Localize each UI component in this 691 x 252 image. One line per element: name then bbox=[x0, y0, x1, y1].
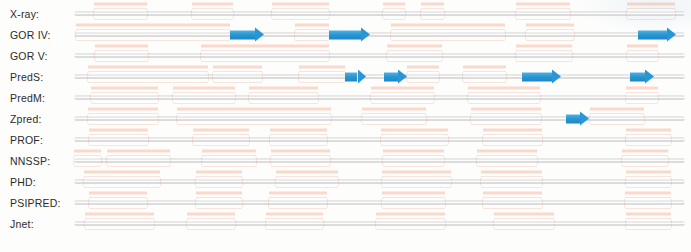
helix-element bbox=[173, 92, 236, 103]
row-label-preds: PredS: bbox=[10, 71, 43, 82]
helix-element bbox=[85, 218, 154, 229]
structure-track-prof bbox=[74, 129, 685, 150]
track-row-gor-iv: GOR IV: bbox=[0, 24, 691, 45]
structure-track-psipred bbox=[74, 192, 685, 213]
coil-backbone bbox=[74, 54, 685, 58]
coil-backbone bbox=[74, 138, 685, 142]
structure-track-gor-v bbox=[74, 45, 685, 66]
helix-element bbox=[391, 29, 506, 40]
helix-element bbox=[213, 71, 262, 82]
helix-element bbox=[383, 8, 405, 19]
helix-element bbox=[376, 218, 445, 229]
helix-element bbox=[622, 155, 668, 166]
helix-element bbox=[107, 155, 170, 166]
helix-element bbox=[387, 50, 442, 61]
track-row-preds: PredS: bbox=[0, 66, 691, 87]
helix-element bbox=[516, 50, 571, 61]
helix-element bbox=[381, 134, 449, 145]
helix-element bbox=[76, 29, 230, 40]
helix-element bbox=[516, 8, 570, 19]
helix-element bbox=[626, 176, 672, 187]
helix-element bbox=[91, 92, 158, 103]
strand-arrow-element bbox=[345, 70, 366, 84]
helix-element bbox=[272, 8, 329, 19]
track-row-jnet: Jnet: bbox=[0, 213, 691, 234]
helix-element bbox=[383, 155, 443, 166]
structure-track-phd bbox=[74, 171, 685, 192]
helix-element bbox=[196, 176, 242, 187]
track-row-prof: PROF: bbox=[0, 129, 691, 150]
row-label-jnet: Jnet: bbox=[10, 218, 34, 229]
row-label-nnssp: NNSSP: bbox=[10, 155, 50, 166]
helix-element bbox=[463, 71, 506, 82]
helix-element bbox=[270, 134, 327, 145]
helix-element bbox=[94, 8, 147, 19]
structure-track-predm bbox=[74, 87, 685, 108]
helix-element bbox=[625, 197, 672, 208]
track-row-x-ray: X-ray: bbox=[0, 3, 691, 24]
structure-track-nnssp bbox=[74, 150, 685, 171]
strand-arrow-element bbox=[230, 28, 263, 42]
helix-element bbox=[626, 134, 672, 145]
strand-arrow-element bbox=[522, 70, 560, 84]
strand-shaft bbox=[522, 72, 551, 81]
helix-element bbox=[177, 113, 331, 124]
helix-element bbox=[407, 71, 439, 82]
helix-element bbox=[84, 176, 160, 187]
row-label-gor-iv: GOR IV: bbox=[10, 29, 51, 40]
strand-arrow-element bbox=[384, 70, 406, 84]
track-row-phd: PHD: bbox=[0, 171, 691, 192]
strand-arrow-element bbox=[630, 70, 655, 84]
structure-track-jnet bbox=[74, 213, 685, 234]
track-row-predm: PredM: bbox=[0, 87, 691, 108]
structure-track-zpred bbox=[74, 108, 685, 129]
helix-element bbox=[627, 8, 675, 19]
structure-track-x-ray bbox=[74, 3, 685, 24]
strand-arrow-element bbox=[329, 28, 370, 42]
coil-backbone bbox=[74, 12, 685, 16]
helix-element bbox=[483, 134, 542, 145]
helix-element bbox=[95, 50, 148, 61]
helix-element bbox=[526, 29, 574, 40]
strand-shaft bbox=[630, 72, 646, 81]
helix-element bbox=[89, 197, 147, 208]
helix-element bbox=[202, 155, 256, 166]
strand-shaft bbox=[230, 30, 254, 39]
row-label-phd: PHD: bbox=[10, 176, 36, 187]
helix-element bbox=[249, 92, 318, 103]
strand-arrowhead bbox=[358, 70, 366, 84]
strand-arrowhead bbox=[398, 70, 407, 84]
helix-element bbox=[193, 134, 248, 145]
helix-element bbox=[471, 113, 541, 124]
strand-shaft bbox=[384, 72, 397, 81]
helix-element bbox=[187, 218, 235, 229]
helix-element bbox=[269, 197, 327, 208]
row-label-prof: PROF: bbox=[10, 134, 43, 145]
helix-element bbox=[626, 92, 658, 103]
strand-shaft bbox=[566, 114, 580, 123]
structure-track-preds bbox=[74, 66, 685, 87]
track-row-zpred: Zpred: bbox=[0, 108, 691, 129]
strand-shaft bbox=[345, 72, 357, 81]
helix-element bbox=[196, 197, 242, 208]
strand-arrow-element bbox=[638, 28, 676, 42]
helix-element bbox=[382, 176, 451, 187]
helix-element bbox=[295, 29, 329, 40]
helix-element bbox=[271, 155, 330, 166]
helix-element bbox=[481, 176, 543, 187]
helix-element bbox=[483, 197, 542, 208]
row-label-psipred: PSIPRED: bbox=[10, 197, 61, 208]
strand-arrowhead bbox=[552, 70, 561, 84]
strand-shaft bbox=[329, 30, 361, 39]
track-row-gor-v: GOR V: bbox=[0, 45, 691, 66]
row-label-zpred: Zpred: bbox=[10, 113, 42, 124]
structure-track-gor-iv bbox=[74, 24, 685, 45]
helix-element bbox=[88, 71, 209, 82]
track-row-nnssp: NNSSP: bbox=[0, 150, 691, 171]
helix-element bbox=[88, 113, 158, 124]
helix-element bbox=[627, 50, 658, 61]
helix-element bbox=[362, 113, 426, 124]
helix-element bbox=[626, 218, 672, 229]
helix-element bbox=[201, 50, 329, 61]
helix-element bbox=[299, 71, 345, 82]
